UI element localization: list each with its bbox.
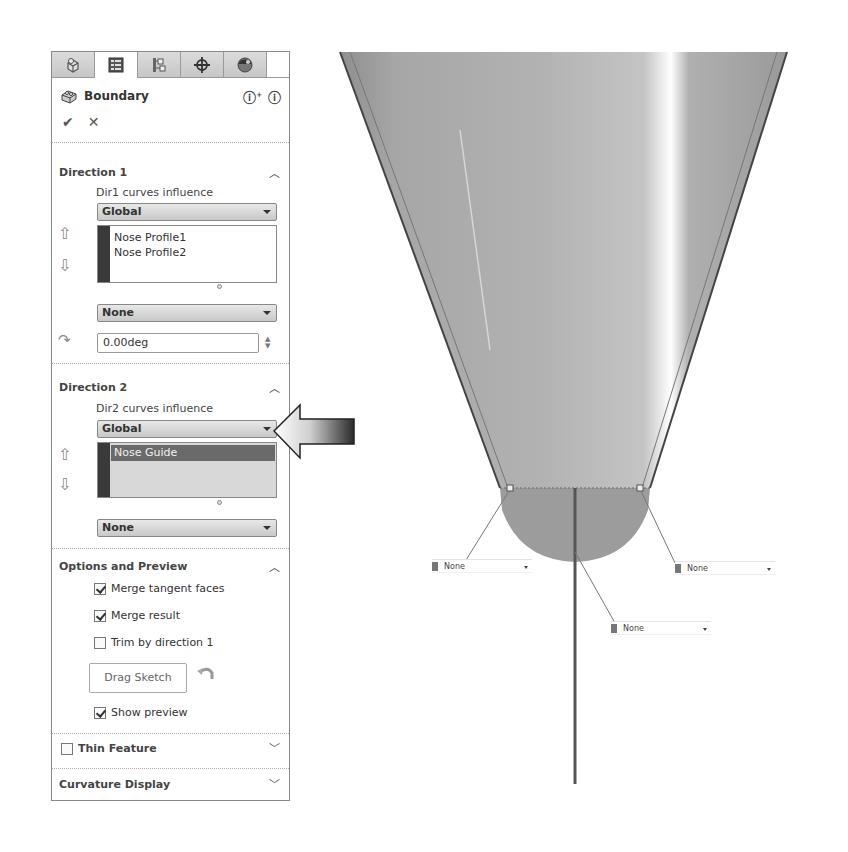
configuration-icon [150,56,168,74]
dropdown-arrow-icon [263,427,271,431]
cancel-button[interactable]: ✕ [88,114,100,130]
ok-button[interactable]: ✔ [62,114,74,130]
tab-property-manager[interactable] [95,52,138,78]
merge-result-checkbox[interactable]: Merge result [94,609,180,622]
tab-configuration-manager[interactable] [138,52,181,78]
panel-header: Boundary ⓘ+ ⓘ [60,84,281,108]
manager-tabs [52,52,289,78]
curvature-display-header[interactable]: Curvature Display [59,778,170,791]
help-icon[interactable]: ⓘ [268,87,281,106]
dropdown-arrow-icon [263,210,271,214]
merge-tangent-faces-checkbox[interactable]: Merge tangent faces [94,582,225,595]
expand-chevron-down-icon[interactable]: ﹀ [269,740,280,756]
move-down-arrow-icon[interactable]: ⇩ [58,256,71,275]
crosshair-icon [193,56,211,74]
connector-tangency-dropdown-right[interactable]: None [675,561,775,575]
dropdown-arrow-icon [263,311,271,315]
dir1-tangency-dropdown[interactable]: None [97,304,277,322]
dir2-influence-label: Dir2 curves influence [96,402,213,415]
divider [52,733,289,734]
checkbox-checked-icon[interactable] [94,610,106,622]
graphics-area[interactable]: None None None [330,40,810,820]
divider [52,363,289,364]
divider [52,548,289,549]
rotate-angle-icon: ↷ [58,331,71,349]
resize-handle[interactable] [217,500,222,505]
dir2-curves-list[interactable]: Nose Guide [97,442,277,498]
angle-spinner[interactable]: ▲▼ [265,336,270,350]
dir1-curves-list[interactable]: Nose Profile1 Nose Profile2 [97,225,277,283]
connector-tangency-dropdown-bottom[interactable]: None [611,621,711,635]
tab-display-manager[interactable] [224,52,267,78]
tab-feature-manager[interactable] [52,52,95,78]
resize-handle[interactable] [217,284,222,289]
collapse-chevron-up-icon[interactable]: ︿ [269,558,280,574]
color-swatch [611,624,617,633]
list-item-selected[interactable]: Nose Guide [111,445,275,461]
divider [52,142,289,143]
direction1-header[interactable]: Direction 1 [59,166,127,179]
checkbox-checked-icon[interactable] [94,583,106,595]
move-up-arrow-icon[interactable]: ⇧ [58,445,71,464]
collapse-chevron-up-icon[interactable]: ︿ [269,379,280,395]
detailed-preview-help-icon[interactable]: ⓘ+ [243,87,262,106]
checkbox-unchecked-icon[interactable] [94,637,106,649]
thin-feature-checkbox[interactable]: Thin Feature [61,742,157,755]
options-preview-header[interactable]: Options and Preview [59,560,188,573]
dropdown-arrow-icon [767,568,771,571]
checkbox-unchecked-icon[interactable] [61,743,73,755]
boundary-property-manager: Boundary ⓘ+ ⓘ ✔ ✕ Direction 1 ︿ Dir1 cur… [51,51,290,801]
selection-color-bar [98,226,110,282]
move-up-arrow-icon[interactable]: ⇧ [58,224,71,243]
selection-color-bar [98,443,110,497]
color-swatch [675,564,681,573]
dir1-influence-label: Dir1 curves influence [96,186,213,199]
dir2-influence-dropdown[interactable]: Global [97,420,277,438]
dropdown-arrow-icon [263,526,271,530]
direction2-header[interactable]: Direction 2 [59,381,127,394]
divider [52,768,289,769]
checkbox-checked-icon[interactable] [94,707,106,719]
tab-strip-filler [267,52,289,78]
move-down-arrow-icon[interactable]: ⇩ [58,475,71,494]
page-title: Boundary [84,89,149,103]
show-preview-checkbox[interactable]: Show preview [94,706,188,719]
feature-tree-icon [64,56,82,74]
color-swatch [432,562,438,571]
tab-dimxpert-manager[interactable] [181,52,224,78]
boundary-surface-preview [330,40,810,820]
list-item[interactable]: Nose Profile2 [114,246,186,259]
dir1-influence-dropdown[interactable]: Global [97,203,277,221]
boundary-feature-icon [60,88,78,104]
list-item[interactable]: Nose Profile1 [114,231,186,244]
trim-by-direction1-checkbox[interactable]: Trim by direction 1 [94,636,214,649]
appearance-icon [236,56,254,74]
undo-sketch-drag-icon[interactable] [196,665,216,683]
dir2-tangency-dropdown[interactable]: None [97,519,277,537]
dropdown-arrow-icon [524,566,528,569]
drag-sketch-button[interactable]: Drag Sketch [89,663,187,693]
expand-chevron-down-icon[interactable]: ﹀ [269,776,280,792]
connector-tangency-dropdown-left[interactable]: None [432,559,532,573]
dir1-angle-input[interactable]: 0.00deg [97,333,259,353]
collapse-chevron-up-icon[interactable]: ︿ [269,164,280,180]
property-manager-icon [107,56,125,74]
dropdown-arrow-icon [703,628,707,631]
